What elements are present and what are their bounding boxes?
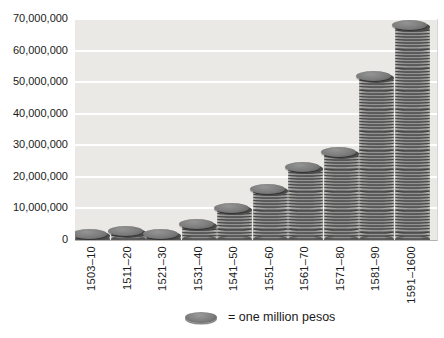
stack-shading bbox=[359, 76, 394, 240]
coin-stack bbox=[146, 234, 181, 240]
legend-label: = one million pesos bbox=[228, 310, 335, 324]
x-axis-label: 1551–60 bbox=[263, 246, 275, 291]
coin-stack bbox=[324, 152, 359, 240]
x-axis-label: 1591–1600 bbox=[405, 246, 417, 304]
gridline bbox=[75, 19, 437, 20]
x-axis-label: 1531–40 bbox=[192, 246, 204, 291]
coin-stack bbox=[395, 25, 430, 240]
coin-icon bbox=[185, 312, 217, 323]
legend: = one million pesos bbox=[185, 310, 335, 324]
stack-top-coin bbox=[356, 71, 391, 81]
x-axis-label: 1561–70 bbox=[298, 246, 310, 291]
y-tick-label: 30,000,000 bbox=[0, 138, 68, 151]
x-axis-label: 1541–50 bbox=[227, 246, 239, 291]
coin-stack bbox=[359, 76, 394, 240]
stack-shading bbox=[324, 152, 359, 240]
stack-top-coin bbox=[143, 229, 178, 239]
coin-stack bbox=[111, 231, 146, 240]
y-tick-label: 0 bbox=[0, 233, 68, 246]
gridline bbox=[75, 50, 437, 52]
coin-stack bbox=[75, 234, 110, 240]
coin-stack bbox=[288, 167, 323, 240]
plot-area bbox=[75, 19, 438, 241]
x-axis-label: 1511–20 bbox=[121, 246, 133, 290]
y-tick-label: 40,000,000 bbox=[0, 107, 68, 120]
stack-top-coin bbox=[108, 226, 143, 236]
y-tick-label: 20,000,000 bbox=[0, 170, 68, 183]
x-axis-label: 1521–30 bbox=[156, 246, 168, 291]
stack-shading bbox=[253, 189, 288, 240]
coin-stack bbox=[182, 224, 217, 240]
y-tick-label: 70,000,000 bbox=[0, 12, 68, 25]
stack-shading bbox=[395, 25, 430, 240]
y-tick-label: 50,000,000 bbox=[0, 75, 68, 88]
stack-shading bbox=[288, 167, 323, 240]
x-axis-label: 1503–10 bbox=[85, 246, 97, 291]
x-axis-label: 1581–90 bbox=[369, 246, 381, 291]
x-axis-label: 1571–80 bbox=[334, 246, 346, 291]
stack-top-coin bbox=[75, 229, 107, 239]
y-tick-label: 10,000,000 bbox=[0, 201, 68, 214]
stack-top-coin bbox=[321, 147, 356, 157]
coin-bar-chart: 010,000,00020,000,00030,000,00040,000,00… bbox=[0, 0, 444, 338]
y-tick-label: 60,000,000 bbox=[0, 44, 68, 57]
coin-stack bbox=[253, 189, 288, 240]
coin-stack bbox=[217, 208, 252, 240]
